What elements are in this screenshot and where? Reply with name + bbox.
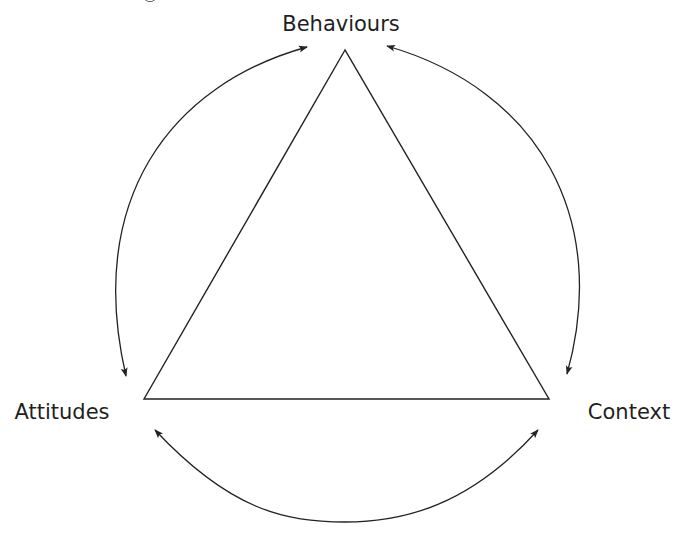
behaviours-attitudes-context-diagram: Behaviours Attitudes Context — [0, 0, 687, 534]
node-label-behaviours: Behaviours — [282, 12, 400, 36]
arrow-attitudes-context — [155, 430, 538, 522]
arrow-behaviours-context — [387, 46, 579, 374]
arrow-behaviours-attitudes — [116, 47, 307, 376]
central-triangle — [144, 50, 549, 399]
node-label-context: Context — [588, 400, 670, 424]
cropped-title-fragment — [145, 0, 155, 2]
node-label-attitudes: Attitudes — [14, 400, 109, 424]
